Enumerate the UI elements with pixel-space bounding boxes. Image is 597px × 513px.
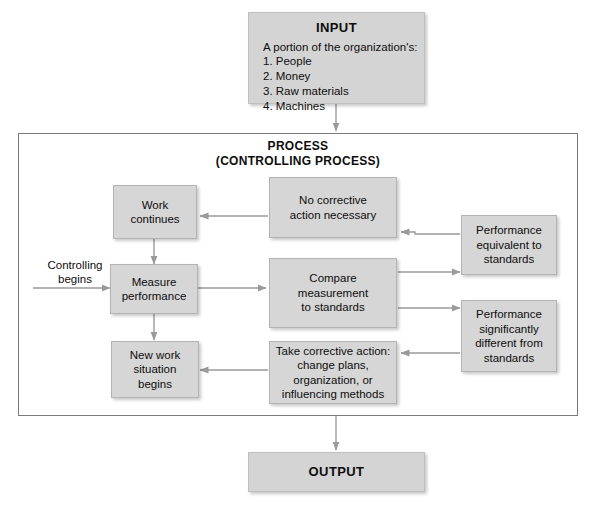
node-compare-measurement: Compare measurement to standards bbox=[269, 258, 397, 328]
node-work-continues: Work continues bbox=[113, 185, 197, 239]
node-performance-equivalent: Performance equivalent to standards bbox=[461, 215, 557, 275]
input-title: INPUT bbox=[249, 21, 424, 36]
node-take-corrective-action: Take corrective action: change plans, or… bbox=[269, 341, 397, 404]
node-measure-performance: Measure performance bbox=[110, 264, 198, 314]
input-list: A portion of the organization's: 1. Peop… bbox=[249, 40, 424, 114]
output-title: OUTPUT bbox=[309, 465, 365, 480]
diagram-canvas: INPUT A portion of the organization's: 1… bbox=[0, 0, 597, 513]
process-title: PROCESS (CONTROLLING PROCESS) bbox=[18, 139, 578, 169]
input-box: INPUT A portion of the organization's: 1… bbox=[248, 12, 425, 104]
output-box: OUTPUT bbox=[248, 452, 425, 492]
node-no-corrective-action: No corrective action necessary bbox=[269, 177, 397, 238]
node-new-work-situation: New work situation begins bbox=[111, 341, 199, 398]
node-performance-different: Performance significantly different from… bbox=[461, 300, 557, 372]
controlling-begins-label: Controlling begins bbox=[32, 258, 118, 286]
